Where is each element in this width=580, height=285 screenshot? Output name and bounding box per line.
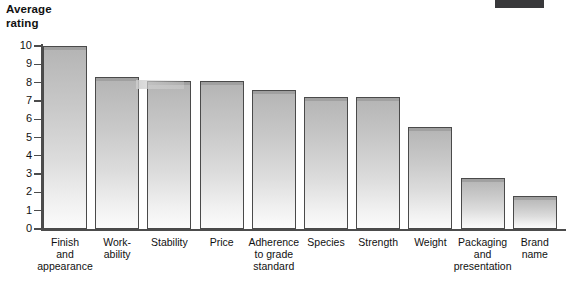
bar-top-highlight	[253, 91, 295, 94]
bar	[95, 77, 139, 229]
bar	[461, 178, 505, 229]
bar-top-highlight	[305, 98, 347, 101]
bar-top-highlight	[44, 47, 86, 50]
bar	[356, 97, 400, 229]
bar-top-highlight	[357, 98, 399, 101]
bar-top-highlight	[409, 128, 451, 131]
category-label: Brand name	[504, 236, 566, 260]
bar	[147, 81, 191, 229]
bar	[513, 196, 557, 229]
bar-top-highlight	[201, 82, 243, 85]
bar-chart: Average rating 109876543210 Finish and a…	[0, 0, 580, 285]
bar	[304, 97, 348, 229]
bar	[252, 90, 296, 229]
bar-top-highlight	[96, 78, 138, 81]
bar	[200, 81, 244, 229]
bar	[408, 127, 452, 229]
bar-top-highlight	[514, 197, 556, 200]
scan-smudge	[136, 80, 184, 89]
bar	[43, 46, 87, 229]
bar-top-highlight	[462, 179, 504, 182]
